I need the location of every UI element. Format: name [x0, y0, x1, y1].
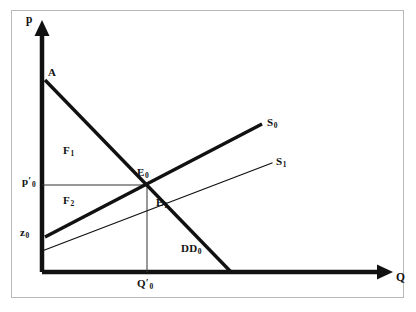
y-axis-arrowhead — [35, 20, 50, 36]
point-a-text: A — [48, 66, 56, 78]
axis-tick-reservation: z0 — [20, 227, 30, 240]
curve-s1-subscript: 1 — [282, 160, 286, 169]
point-e0-subscript: 0 — [145, 171, 149, 180]
tick-quantity-subscript: 0 — [149, 282, 153, 291]
y-axis-label: p — [26, 14, 33, 26]
region-label-f1: F1 — [63, 145, 74, 158]
region-f2-text: F — [63, 194, 70, 206]
point-e1-subscript: 1 — [164, 201, 168, 210]
curve-label-dd0: DD0 — [181, 243, 202, 256]
curve-dd0-text: DD — [181, 242, 197, 254]
supply-curve-s0 — [45, 124, 262, 237]
point-label-e0: E0 — [137, 167, 149, 180]
region-f1-text: F — [63, 144, 70, 156]
point-e1-text: E — [156, 196, 164, 208]
tick-price-subscript: 0 — [31, 180, 35, 189]
figure-canvas: p Q A E0 E1 F1 F2 p′0 z0 Q′0 S0 S1 DD0 — [0, 0, 416, 312]
point-label-e1: E1 — [156, 197, 168, 210]
x-axis-arrowhead — [377, 265, 393, 280]
curve-label-s1: S1 — [276, 156, 287, 169]
axis-tick-price: p′0 — [22, 176, 36, 189]
curve-dd0-subscript: 0 — [197, 247, 201, 256]
tick-quantity-text: Q — [137, 277, 146, 289]
point-label-a: A — [48, 67, 56, 78]
region-f2-subscript: 2 — [70, 199, 74, 208]
tick-z-subscript: 0 — [25, 231, 29, 240]
x-axis-label: Q — [396, 272, 405, 284]
region-f1-subscript: 1 — [70, 149, 74, 158]
axis-tick-quantity: Q′0 — [137, 278, 153, 291]
region-label-f2: F2 — [63, 195, 74, 208]
point-e0-text: E — [137, 166, 145, 178]
curve-label-s0: S0 — [267, 117, 278, 130]
curve-s0-subscript: 0 — [273, 121, 277, 130]
